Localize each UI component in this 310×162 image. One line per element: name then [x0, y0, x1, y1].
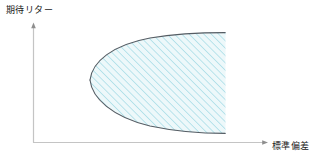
y-axis-arrow-icon: [31, 23, 36, 29]
x-axis-label: 標準偏差: [272, 142, 310, 152]
y-axis-label: 期待リター: [6, 6, 53, 16]
feasible-region-fill: [90, 32, 240, 134]
risk-return-chart: 期待リター 標準偏差: [0, 0, 310, 162]
chart-canvas: [0, 0, 310, 162]
x-axis-arrow-icon: [262, 140, 268, 145]
feasible-region-group: [90, 32, 240, 134]
